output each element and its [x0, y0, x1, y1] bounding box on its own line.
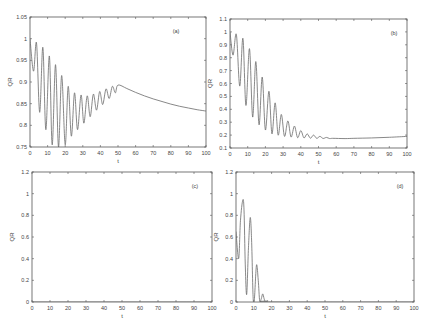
x-tick-label: 10 — [251, 305, 257, 311]
y-tick-label: 0.9 — [219, 42, 227, 48]
y-axis-label: QR — [207, 78, 213, 88]
panel-label: (c) — [192, 183, 199, 189]
x-axis-label: t — [324, 313, 326, 319]
y-tick-label: 1 — [24, 36, 27, 42]
y-tick-label: 1.2 — [225, 169, 233, 175]
x-tick-label: 10 — [245, 151, 251, 157]
y-tick-label: 0.5 — [219, 93, 227, 99]
figure: 01020304050607080901000.750.80.850.90.95… — [0, 0, 429, 329]
x-tick-label: 20 — [269, 305, 275, 311]
x-tick-label: 60 — [340, 305, 346, 311]
x-tick-label: 30 — [80, 150, 86, 156]
y-tick-label: 1 — [26, 191, 29, 197]
y-tick-label: 0.7 — [219, 68, 227, 74]
x-tick-label: 30 — [83, 305, 89, 311]
y-tick-label: 0.2 — [225, 277, 233, 283]
y-tick-label: 0 — [230, 299, 233, 305]
y-tick-label: 0.85 — [16, 101, 27, 107]
x-tick-label: 20 — [65, 305, 71, 311]
x-tick-label: 50 — [119, 305, 125, 311]
x-tick-label: 80 — [168, 150, 174, 156]
x-axis-label: t — [318, 159, 320, 165]
axes-box — [236, 172, 414, 302]
axes-box — [32, 172, 212, 302]
x-tick-label: 90 — [393, 305, 399, 311]
panel-label: (b) — [391, 30, 398, 36]
x-tick-label: 80 — [369, 151, 375, 157]
panel-label: (d) — [397, 183, 404, 189]
panel-label: (a) — [173, 28, 180, 34]
x-tick-label: 90 — [386, 151, 392, 157]
x-tick-label: 50 — [322, 305, 328, 311]
subplot-c: 010203040506070809010000.20.40.60.811.2t… — [9, 169, 217, 319]
y-tick-label: 0.3 — [219, 119, 227, 125]
x-tick-label: 100 — [201, 150, 210, 156]
y-tick-label: 0.8 — [21, 212, 29, 218]
y-axis-label: QR — [213, 232, 219, 242]
y-tick-label: 1.05 — [16, 14, 27, 20]
y-tick-label: 0.75 — [16, 144, 27, 150]
y-tick-label: 0.4 — [219, 106, 227, 112]
subplot-a: 01020304050607080901000.750.80.850.90.95… — [7, 14, 211, 164]
x-tick-label: 40 — [298, 151, 304, 157]
y-tick-label: 0.9 — [19, 79, 27, 85]
x-tick-label: 100 — [409, 305, 418, 311]
x-tick-label: 70 — [155, 305, 161, 311]
y-tick-label: 0.2 — [21, 277, 29, 283]
y-tick-label: 0.6 — [219, 81, 227, 87]
x-tick-label: 70 — [150, 150, 156, 156]
data-line — [30, 39, 206, 147]
y-tick-label: 0.8 — [225, 212, 233, 218]
x-tick-label: 10 — [47, 305, 53, 311]
x-tick-label: 50 — [115, 150, 121, 156]
y-tick-label: 0.6 — [225, 234, 233, 240]
data-line — [236, 199, 414, 303]
x-tick-label: 10 — [45, 150, 51, 156]
x-tick-label: 60 — [137, 305, 143, 311]
x-tick-label: 0 — [228, 151, 231, 157]
x-tick-label: 60 — [133, 150, 139, 156]
x-tick-label: 20 — [262, 151, 268, 157]
x-axis-label: t — [121, 313, 123, 319]
y-tick-label: 0.4 — [225, 256, 233, 262]
x-tick-label: 90 — [191, 305, 197, 311]
x-tick-label: 0 — [30, 305, 33, 311]
y-tick-label: 0.95 — [16, 57, 27, 63]
subplot-b: 01020304050607080901000.10.20.30.40.50.6… — [207, 16, 412, 165]
y-tick-label: 0.2 — [219, 132, 227, 138]
y-tick-label: 1 — [230, 191, 233, 197]
y-tick-label: 0.1 — [219, 145, 227, 151]
x-tick-label: 50 — [315, 151, 321, 157]
x-tick-label: 0 — [234, 305, 237, 311]
x-tick-label: 0 — [28, 150, 31, 156]
x-tick-label: 80 — [375, 305, 381, 311]
x-tick-label: 90 — [185, 150, 191, 156]
axes-box — [230, 19, 407, 148]
y-tick-label: 1.2 — [21, 169, 29, 175]
y-axis-label: QR — [9, 232, 15, 242]
x-tick-label: 100 — [207, 305, 216, 311]
y-axis-label: QR — [7, 77, 13, 87]
y-tick-label: 1.1 — [219, 16, 227, 22]
y-tick-label: 0.8 — [19, 122, 27, 128]
x-axis-label: t — [117, 158, 119, 164]
y-tick-label: 0.6 — [21, 234, 29, 240]
data-line — [230, 32, 407, 139]
x-tick-label: 100 — [402, 151, 411, 157]
x-tick-label: 20 — [62, 150, 68, 156]
y-tick-label: 0.8 — [219, 55, 227, 61]
x-tick-label: 70 — [351, 151, 357, 157]
x-tick-label: 80 — [173, 305, 179, 311]
y-tick-label: 1 — [224, 29, 227, 35]
x-tick-label: 40 — [101, 305, 107, 311]
x-tick-label: 30 — [280, 151, 286, 157]
subplot-d: 010203040506070809010000.20.40.60.811.2t… — [213, 169, 419, 319]
y-tick-label: 0.4 — [21, 256, 29, 262]
y-tick-label: 0 — [26, 299, 29, 305]
x-tick-label: 40 — [304, 305, 310, 311]
x-tick-label: 70 — [358, 305, 364, 311]
x-tick-label: 30 — [286, 305, 292, 311]
x-tick-label: 40 — [97, 150, 103, 156]
x-tick-label: 60 — [333, 151, 339, 157]
